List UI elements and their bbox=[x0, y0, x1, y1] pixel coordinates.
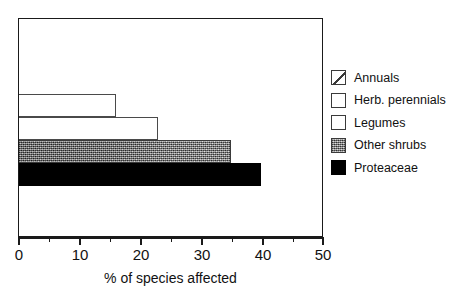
legend-label-legumes: Legumes bbox=[354, 116, 405, 130]
bar-legumes bbox=[19, 117, 158, 140]
x-tick-major-30 bbox=[201, 237, 203, 245]
chart-legend: Annuals Herb. perennials Legumes Other s… bbox=[331, 68, 463, 181]
legend-swatch-white-2-icon bbox=[331, 115, 346, 130]
legend-label-other-shrubs: Other shrubs bbox=[354, 138, 426, 152]
x-tick-major-10 bbox=[79, 237, 81, 245]
x-tick-major-40 bbox=[262, 237, 264, 245]
x-tick-major-20 bbox=[140, 237, 142, 245]
legend-label-proteaceae: Proteaceae bbox=[354, 161, 418, 175]
x-tick-label-0: 0 bbox=[0, 247, 39, 263]
legend-item-legumes: Legumes bbox=[331, 113, 463, 132]
bar-proteaceae bbox=[19, 163, 261, 186]
x-tick-minor-15 bbox=[110, 237, 112, 242]
x-tick-minor-35 bbox=[232, 237, 234, 242]
legend-swatch-diagonal-hatch-icon bbox=[331, 70, 346, 85]
bar-other-shrubs bbox=[19, 140, 231, 163]
x-axis-title: % of species affected bbox=[18, 270, 323, 286]
legend-item-other-shrubs: Other shrubs bbox=[331, 136, 463, 155]
legend-item-proteaceae: Proteaceae bbox=[331, 158, 463, 177]
x-tick-minor-5 bbox=[49, 237, 51, 242]
legend-swatch-white-icon bbox=[331, 93, 346, 108]
bars-layer bbox=[19, 19, 322, 236]
legend-label-herb-perennials: Herb. perennials bbox=[354, 93, 446, 107]
x-tick-minor-25 bbox=[171, 237, 173, 242]
legend-label-annuals: Annuals bbox=[354, 71, 399, 85]
legend-item-herb-perennials: Herb. perennials bbox=[331, 91, 463, 110]
x-tick-label-40: 40 bbox=[243, 247, 283, 263]
legend-item-annuals: Annuals bbox=[331, 68, 463, 87]
x-tick-label-10: 10 bbox=[60, 247, 100, 263]
legend-swatch-black-icon bbox=[331, 160, 346, 175]
x-tick-label-20: 20 bbox=[121, 247, 161, 263]
bar-herb-perennials bbox=[19, 94, 116, 117]
chart-figure: 0 10 20 30 40 50 % of species affected A… bbox=[0, 0, 465, 297]
x-tick-minor-45 bbox=[293, 237, 295, 242]
plot-area bbox=[18, 18, 323, 237]
x-tick-label-50: 50 bbox=[303, 247, 343, 263]
legend-swatch-gray-speckle-icon bbox=[331, 138, 346, 153]
x-tick-major-0 bbox=[18, 237, 20, 245]
x-tick-label-30: 30 bbox=[182, 247, 222, 263]
x-tick-major-50 bbox=[322, 237, 324, 245]
